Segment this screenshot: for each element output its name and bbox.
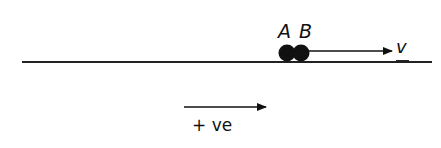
velocity-label: v (396, 38, 407, 56)
particle-a-label: A (278, 22, 291, 41)
sign-convention-label: + ve (192, 117, 232, 134)
particle-b-label: B (299, 22, 312, 41)
particle-b (293, 45, 310, 62)
